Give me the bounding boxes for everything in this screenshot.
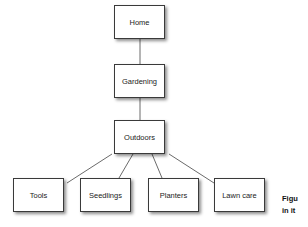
node-label: Planters	[160, 191, 188, 200]
node-label: Gardening	[122, 77, 157, 86]
node-tools: Tools	[13, 178, 64, 212]
node-seedlings: Seedlings	[80, 178, 131, 212]
node-label: Home	[129, 18, 149, 27]
node-label: Tools	[30, 191, 48, 200]
edge-outdoors-planters	[152, 154, 162, 178]
node-home: Home	[114, 5, 165, 39]
figure-caption-line1: Figu	[282, 194, 298, 203]
node-label: Outdoors	[124, 133, 155, 142]
node-outdoors: Outdoors	[114, 120, 165, 154]
node-label: Lawn care	[222, 191, 257, 200]
node-lawn-care: Lawn care	[214, 178, 265, 212]
figure-caption-line2: in it	[282, 206, 295, 215]
edge-outdoors-seedlings	[119, 154, 133, 178]
node-planters: Planters	[148, 178, 199, 212]
node-label: Seedlings	[89, 191, 122, 200]
node-gardening: Gardening	[114, 64, 165, 98]
